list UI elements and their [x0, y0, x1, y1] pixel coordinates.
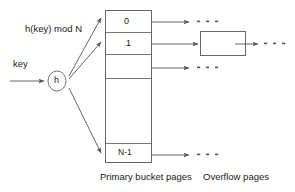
bucket-label-0: 0	[124, 17, 129, 26]
key-label: key	[13, 59, 28, 69]
bucket-label-last: N-1	[118, 148, 132, 157]
hashing-diagram: h(key) mod N key h 0 1 N-1 Primary bucke…	[0, 0, 295, 192]
overflow-page-box	[201, 32, 246, 56]
bucket-2-overflow-dots	[197, 67, 218, 69]
primary-bucket-pages-caption: Primary bucket pages	[100, 172, 192, 182]
overflow-chain-dots	[264, 43, 285, 45]
hash-expression-label: h(key) mod N	[25, 24, 82, 34]
bucket-label-1: 1	[126, 39, 131, 48]
hash-function-label: h	[54, 76, 59, 85]
bucket-last-overflow-dots	[197, 154, 218, 156]
hash-to-bucket-last-arrow	[69, 88, 101, 153]
bucket-0-overflow-dots	[197, 21, 218, 23]
primary-bucket-column	[106, 11, 152, 163]
overflow-pages-caption: Overflow pages	[203, 172, 269, 182]
